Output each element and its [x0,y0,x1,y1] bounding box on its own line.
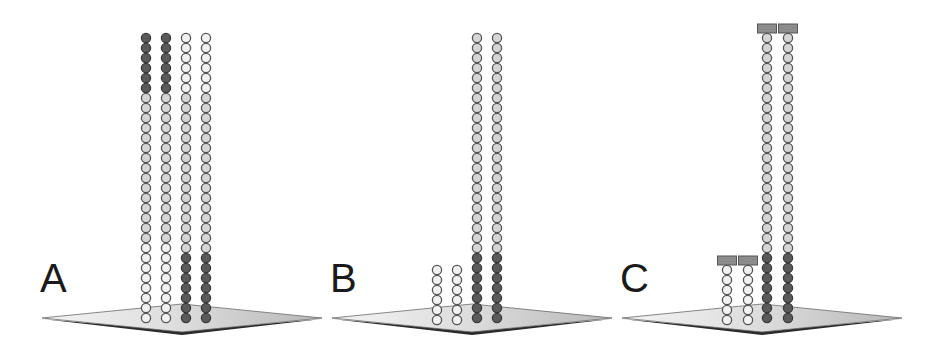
light-bead [762,133,771,142]
light-bead [762,53,771,62]
light-bead [762,243,771,252]
white-bead [432,295,441,304]
light-bead [181,103,190,112]
dark-bead [762,273,771,282]
white-bead [181,53,190,62]
light-bead [762,73,771,82]
light-bead [492,53,501,62]
light-bead [472,33,481,42]
light-bead [762,203,771,212]
light-bead [492,153,501,162]
dark-bead [492,253,501,262]
light-bead [783,233,792,242]
bead-column [779,24,798,323]
light-bead [161,103,170,112]
light-bead [161,133,170,142]
white-bead [452,285,461,294]
panel-a [42,33,322,335]
light-bead [472,233,481,242]
light-bead [161,173,170,182]
dark-bead [141,83,150,92]
white-bead [201,63,210,72]
dark-bead [201,263,210,272]
light-bead [201,183,210,192]
light-bead [181,243,190,252]
bead-column [161,33,170,322]
light-bead [472,83,481,92]
light-bead [472,223,481,232]
dark-bead [141,53,150,62]
white-bead [743,285,752,294]
light-bead [783,143,792,152]
light-bead [161,183,170,192]
light-bead [472,203,481,212]
light-bead [201,213,210,222]
dark-bead [181,263,190,272]
dark-bead [181,313,190,322]
panel-label-b: B [330,258,357,298]
light-bead [762,213,771,222]
dark-bead [181,293,190,302]
white-bead [181,43,190,52]
light-bead [492,123,501,132]
white-bead [161,283,170,292]
light-bead [181,233,190,242]
light-bead [492,173,501,182]
dark-bead [161,33,170,42]
light-bead [762,33,771,42]
white-bead [722,275,731,284]
light-bead [201,173,210,182]
light-bead [783,73,792,82]
light-bead [201,133,210,142]
panel-label-c: C [620,258,649,298]
white-bead [161,263,170,272]
light-bead [783,123,792,132]
light-bead [492,103,501,112]
light-bead [783,183,792,192]
light-bead [472,173,481,182]
light-bead [472,103,481,112]
light-bead [472,133,481,142]
light-bead [161,163,170,172]
light-bead [492,43,501,52]
dark-bead [472,253,481,262]
light-bead [141,103,150,112]
dark-bead [181,253,190,262]
panel-label-a: A [40,258,67,298]
dark-bead [141,33,150,42]
white-bead [722,265,731,274]
white-bead [181,33,190,42]
light-bead [762,93,771,102]
light-bead [762,43,771,52]
white-bead [141,253,150,262]
light-bead [492,223,501,232]
dark-bead [181,303,190,312]
white-bead [201,73,210,82]
white-bead [181,73,190,82]
light-bead [783,83,792,92]
white-bead [743,315,752,324]
dark-bead [472,293,481,302]
dark-bead [141,43,150,52]
light-bead [783,53,792,62]
light-bead [783,43,792,52]
bead-column [201,33,210,322]
dark-bead [181,273,190,282]
light-bead [181,213,190,222]
light-bead [762,113,771,122]
light-bead [492,213,501,222]
white-bead [432,305,441,314]
dark-bead [492,273,501,282]
light-bead [492,143,501,152]
light-bead [201,93,210,102]
white-bead [432,315,441,324]
light-bead [181,123,190,132]
white-bead [161,303,170,312]
white-bead [161,313,170,322]
white-bead [161,243,170,252]
light-bead [201,143,210,152]
white-bead [743,275,752,284]
light-bead [141,233,150,242]
light-bead [141,123,150,132]
light-bead [201,123,210,132]
